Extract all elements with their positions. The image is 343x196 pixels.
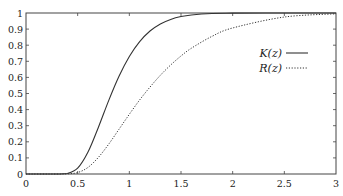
y-tick-label: 0.1	[8, 152, 23, 163]
y-tick-label: 0.5	[8, 88, 23, 99]
x-tick-label: 2.5	[277, 178, 292, 189]
series-k-line	[26, 13, 336, 174]
y-tick-label: 0.2	[8, 136, 23, 147]
plot-frame	[26, 13, 336, 174]
plot-area	[26, 13, 336, 174]
x-tick-label: 0.5	[70, 178, 85, 189]
y-axis: 00.10.20.30.40.50.60.70.80.91	[8, 8, 336, 180]
y-tick-label: 0.9	[8, 24, 23, 35]
x-tick-label: 3	[333, 178, 339, 189]
y-tick-label: 0.8	[8, 40, 23, 51]
x-tick-label: 1	[126, 178, 132, 189]
y-tick-label: 0.7	[8, 56, 23, 67]
x-tick-label: 1.5	[173, 178, 188, 189]
legend: K(z) R(z)	[258, 47, 308, 75]
y-tick-label: 0.3	[8, 120, 23, 131]
line-chart: 00.511.522.53 00.10.20.30.40.50.60.70.80…	[0, 0, 343, 196]
y-tick-label: 0	[17, 169, 23, 180]
x-tick-label: 0	[23, 178, 29, 189]
legend-label-k: K(z)	[258, 47, 282, 60]
series-r-line	[26, 14, 336, 174]
y-tick-label: 0.4	[8, 104, 23, 115]
legend-label-r: R(z)	[258, 62, 282, 75]
x-axis: 00.511.522.53	[23, 13, 339, 189]
x-tick-label: 2	[230, 178, 236, 189]
y-tick-label: 1	[17, 8, 23, 19]
y-tick-label: 0.6	[8, 72, 23, 83]
